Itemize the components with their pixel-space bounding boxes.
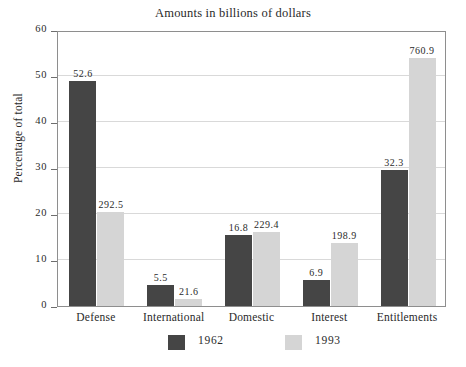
plot-area: 52.6292.55.521.616.8229.46.9198.932.3760… [57, 31, 446, 307]
gridline [58, 75, 445, 76]
bar-value-label: 21.6 [166, 286, 211, 297]
bar-domestic-1993 [253, 232, 280, 306]
chart-title: Amounts in billions of dollars [0, 6, 466, 21]
bar-value-label: 292.5 [88, 199, 133, 210]
bar-domestic-1962 [225, 235, 252, 306]
y-axis-label: Percentage of total [12, 58, 24, 218]
bar-value-label: 198.9 [322, 230, 367, 241]
bar-value-label: 229.4 [244, 219, 289, 230]
bar-entitlements-1993 [409, 58, 436, 306]
bar-value-label: 5.5 [138, 272, 183, 283]
x-axis-label-entitlements: Entitlements [368, 311, 446, 323]
bar-entitlements-1962 [381, 170, 408, 306]
bar-value-label: 52.6 [60, 68, 105, 79]
bar-chart: Amounts in billions of dollars Percentag… [0, 0, 466, 367]
bar-defense-1962 [69, 81, 96, 306]
y-axis-tick-label: 60 [35, 23, 47, 34]
y-axis-tick-label: 0 [41, 299, 47, 310]
x-axis-label-international: International [135, 311, 213, 323]
legend-label-1962: 1962 [198, 334, 224, 346]
gridline [58, 121, 445, 122]
bar-interest-1962 [303, 280, 330, 306]
bar-value-label: 760.9 [400, 45, 445, 56]
bar-interest-1993 [331, 243, 358, 306]
y-axis-tick-mark [51, 307, 57, 308]
x-axis-label-interest: Interest [290, 311, 368, 323]
legend-swatch-1993 [285, 335, 302, 350]
x-axis-label-defense: Defense [57, 311, 135, 323]
x-axis-label-domestic: Domestic [213, 311, 291, 323]
y-axis-tick-label: 20 [35, 207, 47, 218]
y-axis-tick-label: 50 [35, 69, 47, 80]
legend-label-1993: 1993 [315, 334, 341, 346]
bar-international-1993 [175, 299, 202, 306]
y-axis-tick-label: 40 [35, 115, 47, 126]
bar-defense-1993 [97, 212, 124, 306]
y-axis-tick-label: 10 [35, 253, 47, 264]
legend-swatch-1962 [168, 335, 185, 350]
chart-legend: 19621993 [0, 334, 466, 356]
y-axis-tick-label: 30 [35, 161, 47, 172]
